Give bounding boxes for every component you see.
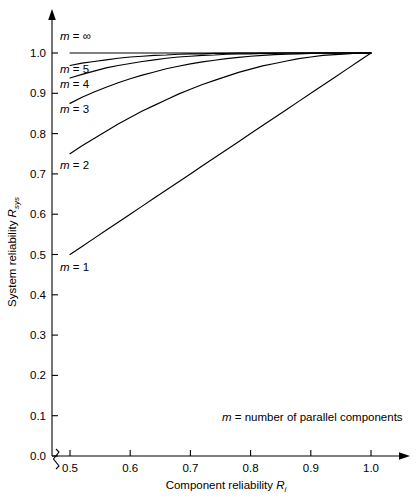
y-tick-label: 0.7 (30, 168, 46, 180)
y-axis-arrowhead (48, 9, 56, 20)
x-tick-label: 0.9 (303, 462, 319, 474)
y-tick-label: 0.1 (30, 410, 46, 422)
axes-group (48, 9, 410, 469)
series-label: m = ∞ (60, 30, 91, 42)
x-tick-label: 0.6 (122, 462, 138, 474)
series-labels-group: m = ∞m = 5m = 4m = 3m = 2m = 1 (60, 30, 91, 273)
curve-2 (70, 53, 371, 154)
x-axis-ticks: 0.50.60.70.80.91.0 (62, 450, 379, 474)
curve-1 (70, 53, 371, 255)
x-axis-arrowhead (399, 452, 410, 460)
series-label: m = 1 (60, 261, 89, 273)
series-label: m = 2 (60, 159, 89, 171)
y-tick-label: 0.5 (30, 249, 46, 261)
y-tick-label: 0.0 (30, 450, 46, 462)
data-curves-group (70, 53, 371, 255)
x-tick-label: 0.8 (243, 462, 259, 474)
y-tick-label: 0.6 (30, 208, 46, 220)
x-tick-label: 1.0 (363, 462, 379, 474)
y-tick-label: 0.9 (30, 87, 46, 99)
series-label: m = 5 (60, 63, 89, 75)
y-tick-label: 0.8 (30, 128, 46, 140)
reliability-chart: 0.00.10.20.30.40.50.60.70.80.91.0 0.50.6… (0, 0, 419, 504)
curve-4 (70, 53, 371, 78)
y-axis-label: System reliability Rsys (6, 197, 21, 307)
chart-annotation: m = number of parallel components (222, 411, 403, 423)
x-tick-label: 0.5 (62, 462, 78, 474)
series-label: m = 4 (60, 78, 90, 90)
x-tick-label: 0.7 (182, 462, 198, 474)
y-tick-label: 1.0 (30, 47, 46, 59)
y-tick-label: 0.3 (30, 329, 46, 341)
x-axis-label: Component reliability Ri (166, 479, 287, 494)
series-label: m = 3 (60, 103, 89, 115)
y-tick-label: 0.4 (30, 289, 47, 301)
y-axis-ticks: 0.00.10.20.30.40.50.60.70.80.91.0 (30, 47, 58, 462)
chart-canvas: 0.00.10.20.30.40.50.60.70.80.91.0 0.50.6… (0, 0, 419, 504)
y-tick-label: 0.2 (30, 369, 46, 381)
axis-break-symbol (54, 449, 60, 469)
